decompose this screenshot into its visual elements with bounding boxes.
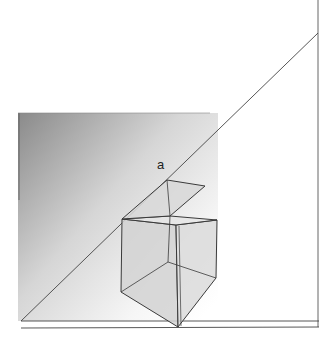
perspective-drawing (0, 0, 336, 349)
point-a-label: a (157, 157, 164, 172)
diagram-canvas: a (0, 0, 336, 349)
floor-line-lower (21, 327, 319, 328)
